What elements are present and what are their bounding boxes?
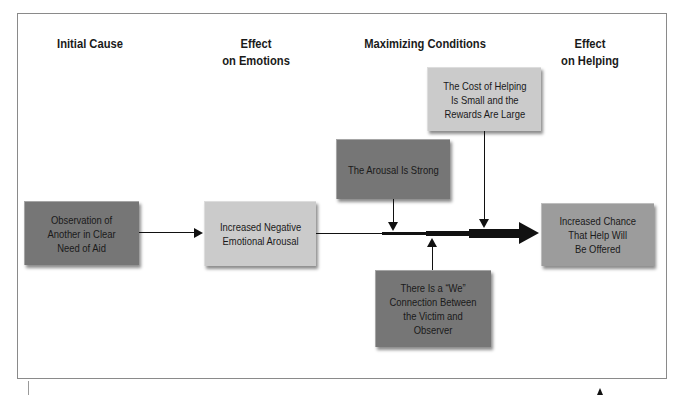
box-negative-arousal: Increased Negative Emotional Arousal [204, 201, 316, 266]
box-cost-small-label: The Cost of Helping Is Small and the Rew… [443, 79, 526, 121]
main-arrow-segment-2 [426, 231, 470, 236]
header-effect-on-helping: Effect on Helping [538, 35, 641, 69]
header-effect-on-emotions: Effect on Emotions [204, 35, 307, 69]
header-initial-cause: Initial Cause [38, 35, 141, 52]
main-arrow-segment-1 [382, 232, 426, 235]
box-observation: Observation of Another in Clear Need of … [24, 201, 139, 265]
box-we-connection: There Is a “We” Connection Between the V… [375, 270, 491, 347]
box-increased-chance-label: Increased Chance That Help Will Be Offer… [560, 214, 637, 256]
main-arrow-head-icon [519, 222, 539, 244]
box-observation-label: Observation of Another in Clear Need of … [48, 213, 116, 255]
arrow-we-connection-head-icon [427, 238, 437, 247]
arrow-cost-small-head-icon [479, 219, 489, 228]
arrow-cost-small-line [484, 131, 485, 221]
header-maximizing-conditions: Maximizing Conditions [356, 35, 494, 52]
main-arrow-thin-segment [316, 233, 382, 234]
box-arousal-strong: The Arousal Is Strong [336, 139, 450, 199]
arrow-observation-to-arousal-head-icon [194, 228, 203, 238]
box-cost-small: The Cost of Helping Is Small and the Rew… [427, 67, 541, 131]
box-increased-chance: Increased Chance That Help Will Be Offer… [541, 203, 654, 266]
box-negative-arousal-label: Increased Negative Emotional Arousal [220, 220, 301, 248]
arrow-observation-to-arousal-line [139, 232, 195, 233]
box-arousal-strong-label: The Arousal Is Strong [348, 163, 439, 177]
arrow-arousal-strong-line [393, 199, 394, 223]
page-rule [28, 381, 29, 395]
box-we-connection-label: There Is a “We” Connection Between the V… [390, 281, 477, 337]
main-arrow-segment-3 [469, 229, 521, 238]
arrow-we-connection-line [432, 246, 433, 270]
page-marker-icon [597, 388, 603, 395]
arrow-arousal-strong-head-icon [388, 222, 398, 231]
